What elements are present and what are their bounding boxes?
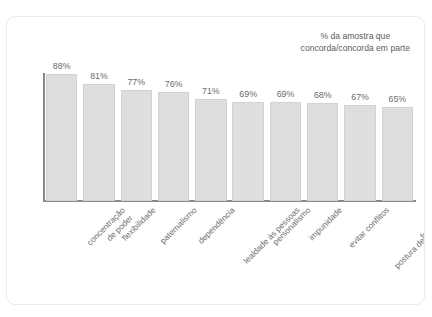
bar-series: 88%81%77%76%71%69%69%68%67%65% bbox=[43, 57, 416, 201]
bar-group: 76% bbox=[155, 57, 192, 201]
bar-group: 69% bbox=[267, 57, 304, 201]
x-axis-category-label: evitar conflitos bbox=[346, 205, 391, 250]
bar-value-label: 88% bbox=[43, 61, 80, 71]
x-axis-category-label: dependência bbox=[196, 205, 237, 246]
bar bbox=[344, 105, 375, 201]
bar bbox=[382, 107, 413, 201]
bar-value-label: 67% bbox=[341, 92, 378, 102]
x-axis-category-label: paternalismo bbox=[158, 205, 199, 246]
bar-value-label: 76% bbox=[155, 79, 192, 89]
bar-group: 65% bbox=[379, 57, 416, 201]
bar-group: 68% bbox=[304, 57, 341, 201]
x-axis-category-label: postura de espectador bbox=[392, 205, 425, 271]
x-axis-category-labels: concentraçãode poderflexibilidadepaterna… bbox=[43, 203, 416, 303]
bar bbox=[270, 102, 301, 201]
bar bbox=[307, 103, 338, 201]
bar-value-label: 68% bbox=[304, 90, 341, 100]
bar-group: 81% bbox=[80, 57, 117, 201]
bar-value-label: 69% bbox=[230, 89, 267, 99]
bar bbox=[232, 102, 263, 201]
bar-value-label: 71% bbox=[192, 86, 229, 96]
bar bbox=[195, 99, 226, 201]
clipped-title-sliver: … bbox=[0, 0, 432, 14]
bar bbox=[46, 74, 77, 201]
bar-group: 77% bbox=[118, 57, 155, 201]
bar bbox=[83, 84, 114, 201]
bar-value-label: 77% bbox=[118, 77, 155, 87]
bar-group: 69% bbox=[230, 57, 267, 201]
bar-chart-plot-area: 88%81%77%76%71%69%69%68%67%65% concentra… bbox=[7, 17, 425, 305]
bar bbox=[121, 90, 152, 201]
bar-value-label: 69% bbox=[267, 89, 304, 99]
bar-group: 88% bbox=[43, 57, 80, 201]
bar-value-label: 65% bbox=[379, 94, 416, 104]
x-axis-category-label: lealdade às pessoas bbox=[241, 205, 302, 266]
bar-value-label: 81% bbox=[80, 71, 117, 81]
bar-group: 67% bbox=[341, 57, 378, 201]
chart-card: % da amostra que concorda/concorda em pa… bbox=[6, 16, 425, 305]
bar-group: 71% bbox=[192, 57, 229, 201]
bar bbox=[158, 92, 189, 201]
